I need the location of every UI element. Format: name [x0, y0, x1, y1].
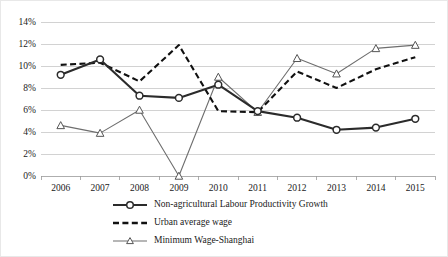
chart-container: 0%2%4%6%8%10%12%14% 20062007200820092010…	[0, 0, 448, 257]
data-point-triangle	[57, 122, 65, 129]
y-axis-label: 12%	[19, 39, 37, 49]
x-axis-label: 2007	[91, 183, 110, 193]
legend-label-productivity: Non-agricultural Labour Productivity Gro…	[154, 200, 328, 210]
y-axis-tick-labels: 0%2%4%6%8%10%12%14%	[19, 17, 37, 181]
legend-label-urban-wage: Urban average wage	[154, 218, 232, 228]
legend-key-urban-wage	[112, 216, 148, 230]
x-axis-label: 2011	[248, 183, 267, 193]
legend-key-productivity	[112, 198, 148, 212]
y-axis-label: 0%	[23, 171, 36, 181]
data-point-triangle	[333, 70, 341, 77]
x-axis-label: 2013	[327, 183, 346, 193]
data-point-triangle	[293, 55, 301, 62]
x-axis-label: 2012	[288, 183, 307, 193]
data-point-circle	[294, 114, 301, 121]
x-axis-label: 2010	[209, 183, 228, 193]
data-point-circle	[333, 126, 340, 133]
x-axis-label: 2006	[51, 183, 70, 193]
x-axis-tick-labels: 2006200720082009201020112012201320142015	[51, 183, 425, 193]
data-point-circle	[57, 71, 64, 78]
legend-key-min-wage	[112, 234, 148, 248]
legend-item-urban-wage[interactable]: Urban average wage	[112, 214, 412, 232]
data-point-circle	[254, 108, 261, 115]
data-point-circle	[373, 124, 380, 131]
y-axis-label: 14%	[19, 17, 37, 27]
x-axis-label: 2008	[130, 183, 149, 193]
chart-legend: Non-agricultural Labour Productivity Gro…	[112, 196, 412, 250]
data-point-circle	[97, 56, 104, 63]
x-axis-label: 2009	[169, 183, 188, 193]
y-axis-label: 8%	[23, 83, 36, 93]
legend-label-min-wage: Minimum Wage-Shanghai	[154, 236, 254, 246]
data-point-triangle	[215, 73, 223, 80]
legend-item-min-wage[interactable]: Minimum Wage-Shanghai	[112, 232, 412, 250]
y-axis-label: 6%	[23, 105, 36, 115]
x-axis-label: 2015	[406, 183, 425, 193]
data-series	[61, 45, 416, 176]
axis-tickmarks	[41, 176, 435, 180]
data-point-circle	[412, 115, 419, 122]
x-axis-label: 2014	[366, 183, 385, 193]
data-point-circle	[176, 95, 183, 102]
data-point-circle	[215, 81, 222, 88]
data-point-circle	[136, 92, 143, 99]
series-line	[61, 45, 416, 176]
series-line	[61, 45, 416, 112]
y-axis-label: 10%	[19, 61, 37, 71]
y-axis-label: 4%	[23, 127, 36, 137]
y-axis-label: 2%	[23, 149, 36, 159]
legend-item-productivity[interactable]: Non-agricultural Labour Productivity Gro…	[112, 196, 412, 214]
